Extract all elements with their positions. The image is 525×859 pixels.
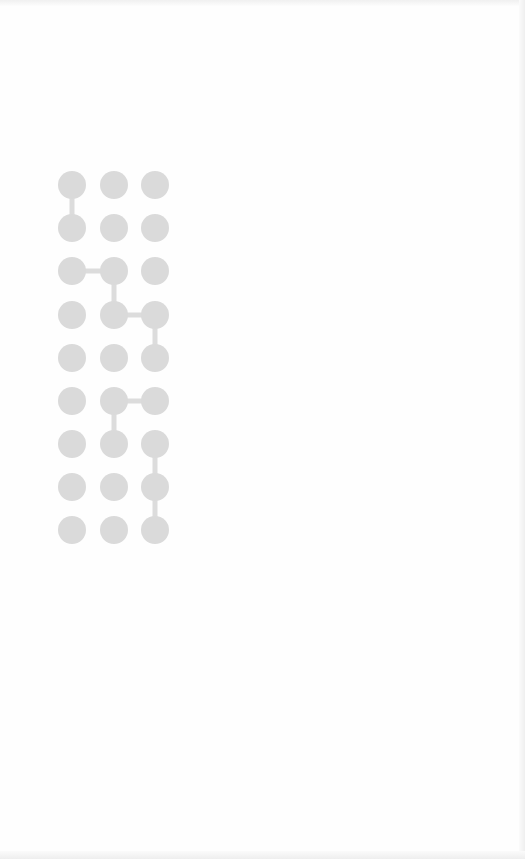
diagram-node — [58, 257, 86, 285]
diagram-node — [58, 344, 86, 372]
scanned-page — [0, 0, 525, 859]
diagram-node — [58, 171, 86, 199]
diagram-node — [100, 430, 128, 458]
diagram-node — [141, 430, 169, 458]
diagram-node — [141, 387, 169, 415]
diagram-node — [141, 171, 169, 199]
diagram-node — [100, 387, 128, 415]
diagram-node — [100, 214, 128, 242]
diagram-node — [141, 257, 169, 285]
diagram-nodes — [58, 171, 169, 544]
diagram-node — [100, 171, 128, 199]
diagram-node — [100, 344, 128, 372]
diagram-node — [58, 214, 86, 242]
diagram-node — [58, 387, 86, 415]
diagram-node — [141, 301, 169, 329]
diagram-node — [100, 301, 128, 329]
diagram-node — [141, 516, 169, 544]
diagram-node — [100, 257, 128, 285]
diagram-node — [58, 430, 86, 458]
diagram-node — [141, 344, 169, 372]
diagram-node — [100, 473, 128, 501]
diagram-node — [58, 473, 86, 501]
diagram-node — [141, 214, 169, 242]
node-grid-diagram — [0, 0, 525, 859]
diagram-node — [141, 473, 169, 501]
diagram-node — [58, 301, 86, 329]
diagram-node — [100, 516, 128, 544]
diagram-node — [58, 516, 86, 544]
